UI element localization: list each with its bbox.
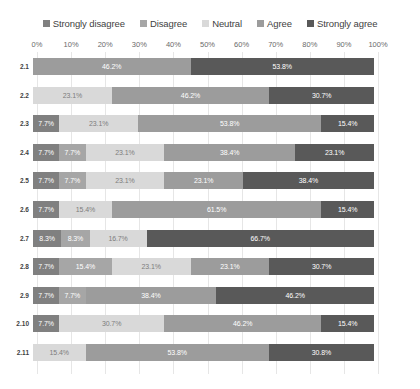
bar-segment[interactable]: 46.2% bbox=[164, 315, 322, 332]
bar-segment[interactable]: 7.7% bbox=[33, 201, 59, 218]
legend-swatch-strongly-agree bbox=[307, 20, 314, 27]
bar-segment[interactable]: 46.2% bbox=[33, 58, 191, 75]
legend-item-label: Disagree bbox=[150, 18, 187, 29]
bar-segment[interactable]: 7.7% bbox=[33, 315, 59, 332]
bar-segment[interactable]: 30.7% bbox=[269, 87, 374, 104]
bar-segment[interactable]: 23.1% bbox=[164, 172, 243, 189]
bar-segment[interactable]: 7.7% bbox=[59, 172, 85, 189]
chart-row: 2.107.7%30.7%46.2%15.4% bbox=[0, 315, 420, 332]
bar-segment[interactable]: 15.4% bbox=[321, 201, 374, 218]
bar-segment-value-label: 15.4% bbox=[338, 206, 357, 213]
legend-item[interactable]: Agree bbox=[257, 18, 292, 29]
bar-segment[interactable]: 23.1% bbox=[86, 144, 165, 161]
bar-segment[interactable]: 53.8% bbox=[138, 115, 321, 132]
bar-segment-value-label: 16.7% bbox=[108, 235, 127, 242]
bar-segment[interactable]: 30.8% bbox=[269, 344, 374, 361]
bar-segment[interactable]: 7.7% bbox=[33, 258, 59, 275]
bar-segment[interactable]: 7.7% bbox=[33, 144, 59, 161]
bar-segment[interactable]: 66.7% bbox=[147, 230, 374, 247]
stacked-bar: 23.1%46.2%30.7% bbox=[33, 87, 374, 104]
bar-segment[interactable]: 53.8% bbox=[191, 58, 374, 75]
bar-segment-value-label: 46.2% bbox=[286, 292, 305, 299]
bar-segment[interactable]: 16.7% bbox=[90, 230, 147, 247]
chart-row: 2.57.7%7.7%23.1%23.1%38.4% bbox=[0, 172, 420, 189]
bar-segment[interactable]: 23.1% bbox=[86, 172, 165, 189]
bar-segment[interactable]: 30.7% bbox=[59, 315, 164, 332]
axis-tick-label: 60% bbox=[234, 40, 249, 49]
bar-segment[interactable]: 15.4% bbox=[59, 201, 112, 218]
bar-segment-value-label: 23.1% bbox=[325, 149, 344, 156]
bar-segment-value-label: 46.2% bbox=[102, 63, 121, 70]
bar-segment-value-label: 15.4% bbox=[338, 320, 357, 327]
row-category-label: 2.3 bbox=[0, 120, 33, 127]
bar-segment-value-label: 46.2% bbox=[233, 320, 252, 327]
bar-segment[interactable]: 53.8% bbox=[86, 344, 269, 361]
bar-segment-value-label: 38.4% bbox=[141, 292, 160, 299]
legend-item[interactable]: Neutral bbox=[202, 18, 242, 29]
bar-segment[interactable]: 46.2% bbox=[112, 87, 270, 104]
bar-segment[interactable]: 61.5% bbox=[112, 201, 322, 218]
bar-segment[interactable]: 15.4% bbox=[33, 344, 86, 361]
legend-item-label: Agree bbox=[267, 18, 292, 29]
bar-segment[interactable]: 7.7% bbox=[33, 115, 59, 132]
axis-tick-label: 70% bbox=[268, 40, 283, 49]
chart-row: 2.87.7%15.4%23.1%23.1%30.7% bbox=[0, 258, 420, 275]
bar-segment[interactable]: 15.4% bbox=[321, 315, 374, 332]
row-category-label: 2.4 bbox=[0, 149, 33, 156]
bar-segment[interactable]: 23.1% bbox=[33, 87, 112, 104]
bar-segment-value-label: 30.7% bbox=[312, 263, 331, 270]
bar-segment-value-label: 7.7% bbox=[38, 263, 54, 270]
bar-segment[interactable]: 30.7% bbox=[269, 258, 374, 275]
bar-segment-value-label: 15.4% bbox=[76, 263, 95, 270]
bar-segment[interactable]: 38.4% bbox=[86, 287, 217, 304]
row-category-label: 2.7 bbox=[0, 235, 33, 242]
chart-row: 2.223.1%46.2%30.7% bbox=[0, 87, 420, 104]
bar-segment[interactable]: 46.2% bbox=[216, 287, 374, 304]
axis-tick-label: 40% bbox=[166, 40, 181, 49]
bar-segment-value-label: 7.7% bbox=[38, 120, 54, 127]
chart-row: 2.37.7%23.1%53.8%15.4% bbox=[0, 115, 420, 132]
row-category-label: 2.9 bbox=[0, 292, 33, 299]
legend-swatch-strongly-disagree bbox=[43, 20, 50, 27]
legend-item-label: Strongly disagree bbox=[53, 18, 125, 29]
bar-segment[interactable]: 23.1% bbox=[112, 258, 191, 275]
bar-segment-value-label: 7.7% bbox=[38, 292, 54, 299]
axis-tick-label: 30% bbox=[132, 40, 147, 49]
legend-swatch-disagree bbox=[140, 20, 147, 27]
stacked-bar: 7.7%15.4%61.5%15.4% bbox=[33, 201, 374, 218]
bar-segment[interactable]: 15.4% bbox=[321, 115, 374, 132]
chart-row: 2.67.7%15.4%61.5%15.4% bbox=[0, 201, 420, 218]
bar-segment-value-label: 38.4% bbox=[220, 149, 239, 156]
bar-segment[interactable]: 7.7% bbox=[59, 144, 85, 161]
bar-segment[interactable]: 23.1% bbox=[295, 144, 374, 161]
legend-swatch-agree bbox=[257, 20, 264, 27]
bar-segment-value-label: 7.7% bbox=[38, 206, 54, 213]
bar-segment[interactable]: 8.3% bbox=[33, 230, 61, 247]
legend-item[interactable]: Strongly agree bbox=[307, 18, 377, 29]
bar-segment[interactable]: 7.7% bbox=[59, 287, 85, 304]
bar-segment[interactable]: 38.4% bbox=[243, 172, 374, 189]
legend-item-label: Neutral bbox=[212, 18, 242, 29]
bar-segment-value-label: 23.1% bbox=[63, 92, 82, 99]
bar-segment-value-label: 8.3% bbox=[39, 235, 55, 242]
bar-segment-value-label: 30.8% bbox=[312, 349, 331, 356]
bar-segment[interactable]: 7.7% bbox=[33, 172, 59, 189]
bar-segment-value-label: 23.1% bbox=[115, 177, 134, 184]
bar-segment[interactable]: 7.7% bbox=[33, 287, 59, 304]
stacked-bar: 7.7%7.7%23.1%23.1%38.4% bbox=[33, 172, 374, 189]
stacked-bar: 7.7%7.7%23.1%38.4%23.1% bbox=[33, 144, 374, 161]
stacked-bar: 8.3%8.3%16.7%66.7% bbox=[33, 230, 374, 247]
bar-segment[interactable]: 23.1% bbox=[191, 258, 270, 275]
stacked-bar-chart: Strongly disagreeDisagreeNeutralAgreeStr… bbox=[0, 0, 420, 389]
bar-segment[interactable]: 38.4% bbox=[164, 144, 295, 161]
legend-item[interactable]: Strongly disagree bbox=[43, 18, 125, 29]
legend-item[interactable]: Disagree bbox=[140, 18, 187, 29]
row-category-label: 2.11 bbox=[0, 349, 33, 356]
axis-tick-label: 80% bbox=[302, 40, 317, 49]
bar-segment[interactable]: 8.3% bbox=[61, 230, 89, 247]
bar-segment[interactable]: 15.4% bbox=[59, 258, 112, 275]
bar-segment[interactable]: 23.1% bbox=[59, 115, 138, 132]
axis-tick-label: 100% bbox=[368, 40, 387, 49]
chart-legend: Strongly disagreeDisagreeNeutralAgreeStr… bbox=[0, 18, 420, 29]
bar-segment-value-label: 23.1% bbox=[194, 177, 213, 184]
